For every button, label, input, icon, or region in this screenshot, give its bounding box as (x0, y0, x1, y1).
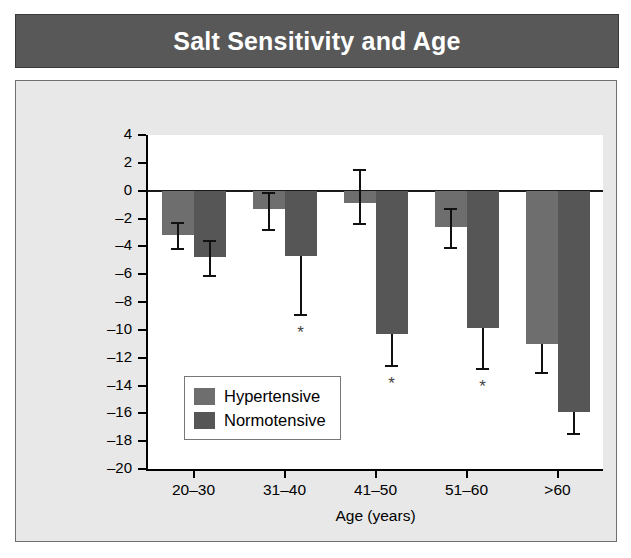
error-bar-stem (359, 170, 361, 224)
error-bar-cap (203, 240, 216, 242)
y-axis-tick-label: 0 (124, 181, 132, 198)
error-bar-stem (300, 256, 302, 314)
y-axis-tick (138, 273, 146, 275)
y-axis-tick (138, 301, 146, 303)
y-axis-tick (138, 440, 146, 442)
y-axis-tick (138, 329, 146, 331)
significance-asterisk: * (479, 378, 486, 395)
bar-normotensive-1 (285, 191, 317, 256)
bar-normotensive-4 (558, 191, 590, 412)
bar-hypertensive-4 (526, 191, 558, 344)
x-axis-tick (557, 469, 559, 478)
chart-title-banner: Salt Sensitivity and Age (15, 14, 619, 68)
y-axis-tick-label: –6 (115, 264, 132, 281)
error-bar-cap (444, 208, 457, 210)
error-bar-cap (203, 275, 216, 277)
y-axis-tick (138, 245, 146, 247)
legend-label-normotensive: Normotensive (224, 411, 326, 430)
error-bar-stem (391, 334, 393, 366)
chart-panel: Change in mean arterial blood pressure (… (15, 80, 617, 542)
error-bar-stem (541, 344, 543, 373)
y-axis-tick (138, 412, 146, 414)
y-axis-tick (138, 134, 146, 136)
error-bar-cap (262, 192, 275, 194)
legend-swatch-hypertensive (194, 388, 215, 405)
y-axis-tick-label: 4 (124, 125, 132, 142)
chart-legend: Hypertensive Normotensive (184, 376, 341, 440)
x-axis-tick-label: 31–40 (263, 481, 306, 499)
x-axis-tick (375, 469, 377, 478)
x-axis-tick (466, 469, 468, 478)
error-bar-cap (476, 368, 489, 370)
error-bar-stem (209, 241, 211, 276)
page-title: Salt Sensitivity and Age (173, 27, 460, 56)
x-axis-tick-label: >60 (544, 481, 570, 499)
y-axis-tick (138, 162, 146, 164)
y-axis-tick (138, 385, 146, 387)
error-bar-cap (353, 169, 366, 171)
error-bar-cap (262, 229, 275, 231)
legend-swatch-normotensive (194, 412, 215, 429)
y-axis-tick-label: –10 (107, 320, 132, 337)
error-bar-stem (573, 412, 575, 434)
error-bar-cap (171, 248, 184, 250)
error-bar-cap (353, 223, 366, 225)
error-bar-cap (567, 433, 580, 435)
x-axis-title: Age (years) (335, 507, 415, 525)
error-bar-stem (177, 223, 179, 249)
bar-normotensive-2 (376, 191, 408, 334)
error-bar-stem (268, 193, 270, 229)
error-bar-cap (444, 247, 457, 249)
y-axis-tick-label: –8 (115, 292, 132, 309)
error-bar-stem (450, 209, 452, 248)
y-axis-tick (138, 357, 146, 359)
y-axis-tick-label: –20 (107, 459, 132, 476)
y-axis-tick-label: –16 (107, 403, 132, 420)
y-axis-tick (138, 218, 146, 220)
x-axis-tick-label: 51–60 (445, 481, 488, 499)
legend-label-hypertensive: Hypertensive (224, 387, 320, 406)
y-axis-tick-label: –2 (115, 209, 132, 226)
y-axis-tick-label: –18 (107, 431, 132, 448)
y-axis-tick-label: –14 (107, 376, 132, 393)
y-axis-tick-label: –12 (107, 348, 132, 365)
x-axis-tick-label: 20–30 (172, 481, 215, 499)
error-bar-cap (294, 314, 307, 316)
error-bar-stem (482, 328, 484, 368)
error-bar-cap (535, 372, 548, 374)
x-axis-tick (193, 469, 195, 478)
legend-item-hypertensive: Hypertensive (194, 384, 326, 408)
x-axis-tick (284, 469, 286, 478)
x-axis-tick-label: 41–50 (354, 481, 397, 499)
y-axis-tick (138, 190, 146, 192)
y-axis-tick-label: –4 (115, 236, 132, 253)
bar-normotensive-3 (467, 191, 499, 329)
plot-area: *** Age (years) Hypertensive Normotensiv… (146, 135, 603, 471)
significance-asterisk: * (297, 324, 304, 341)
error-bar-cap (171, 222, 184, 224)
y-axis-tick-label: 2 (124, 153, 132, 170)
y-axis-tick (138, 468, 146, 470)
legend-item-normotensive: Normotensive (194, 408, 326, 432)
figure: Salt Sensitivity and Age Change in mean … (0, 0, 631, 558)
error-bar-cap (385, 365, 398, 367)
significance-asterisk: * (388, 375, 395, 392)
